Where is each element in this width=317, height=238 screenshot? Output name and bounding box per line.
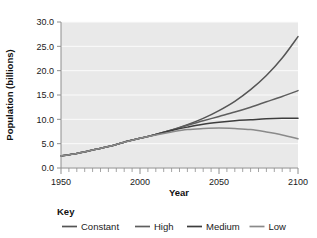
x-tick-label: 2000 xyxy=(130,177,150,187)
legend-label-high: High xyxy=(154,221,174,232)
y-tick-label: 0.0 xyxy=(41,163,54,173)
chart-canvas: 0.05.010.015.020.025.030.0 1950200020502… xyxy=(0,0,317,238)
y-tick-label: 20.0 xyxy=(36,66,54,76)
y-tick-label: 10.0 xyxy=(36,115,54,125)
y-tick-label: 30.0 xyxy=(36,17,54,27)
population-projection-chart: 0.05.010.015.020.025.030.0 1950200020502… xyxy=(0,0,317,238)
legend-label-constant: Constant xyxy=(81,221,119,232)
x-axis-title: Year xyxy=(169,187,189,198)
legend-label-medium: Medium xyxy=(206,221,240,232)
y-tick-label: 15.0 xyxy=(36,90,54,100)
legend-title: Key xyxy=(57,206,75,217)
y-tick-label: 5.0 xyxy=(41,139,54,149)
y-tick-label: 25.0 xyxy=(36,42,54,52)
x-tick-label: 2050 xyxy=(209,177,229,187)
x-tick-label: 2100 xyxy=(288,177,308,187)
legend-label-low: Low xyxy=(269,221,287,232)
y-axis-title: Population (billions) xyxy=(4,49,15,140)
x-tick-label: 1950 xyxy=(51,177,71,187)
